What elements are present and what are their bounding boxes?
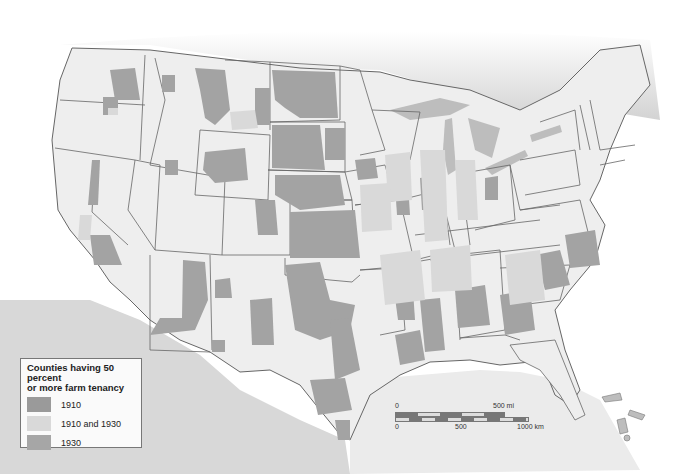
- legend-title-line2: or more farm tenancy: [27, 383, 135, 393]
- scale-km-end: 1000 km: [517, 423, 544, 430]
- legend-label-1910-and-1930: 1910 and 1930: [61, 419, 121, 429]
- farm-tenancy-map: Counties having 50 percent or more farm …: [0, 0, 695, 474]
- scale-bar: 0 500 mi 0 500 1000 km: [395, 398, 555, 432]
- legend-label-1910: 1910: [61, 400, 81, 410]
- map-legend: Counties having 50 percent or more farm …: [20, 358, 142, 448]
- scale-km-start: 0: [395, 423, 399, 430]
- scale-miles-end: 500 mi: [493, 402, 514, 409]
- scale-km-mid: 500: [455, 423, 467, 430]
- scale-miles-start: 0: [395, 402, 399, 409]
- legend-item-1910: 1910: [27, 397, 135, 412]
- legend-title-line1: Counties having 50 percent: [27, 363, 135, 383]
- legend-swatch-1910-and-1930: [27, 416, 51, 431]
- legend-swatch-1930: [27, 435, 51, 450]
- legend-label-1930: 1930: [61, 438, 81, 448]
- legend-item-1930: 1930: [27, 435, 135, 450]
- legend-item-1910-and-1930: 1910 and 1930: [27, 416, 135, 431]
- scale-km-bar: [395, 417, 529, 422]
- legend-swatch-1910: [27, 397, 51, 412]
